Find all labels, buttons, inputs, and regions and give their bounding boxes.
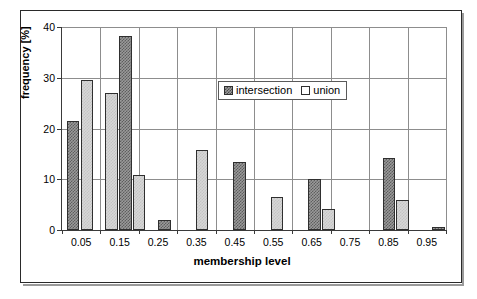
bar-union	[396, 200, 409, 230]
x-axis-label: 0.85	[378, 237, 398, 248]
bar-union	[271, 197, 284, 230]
x-gridline	[331, 27, 332, 230]
y-axis-label: 40	[31, 22, 55, 32]
x-gridline	[292, 27, 293, 230]
bar-intersection	[119, 36, 132, 230]
x-gridline	[100, 27, 101, 230]
y-axis-label: 30	[31, 73, 55, 83]
x-axis-tick	[292, 230, 293, 234]
x-axis-label: 0.65	[301, 237, 321, 248]
bar-union	[322, 209, 335, 230]
figure-frame: 010203040 0.050.150.250.350.450.550.650.…	[20, 10, 462, 283]
x-axis-label: 0.35	[186, 237, 206, 248]
y-axis-label: 20	[31, 124, 55, 134]
bar-union	[81, 80, 94, 230]
y-axis-tick	[57, 78, 62, 79]
plot-area: 010203040 0.050.150.250.350.450.550.650.…	[61, 27, 446, 231]
x-gridline	[446, 27, 447, 230]
y-axis-label: 0	[31, 225, 55, 235]
x-axis-tick	[331, 230, 332, 234]
y-axis-tick	[57, 27, 62, 28]
chart-legend: intersection union	[218, 81, 347, 100]
legend-item-union: union	[301, 84, 340, 96]
x-axis-label: 0.05	[71, 237, 91, 248]
bar-intersection	[308, 179, 321, 230]
x-axis-tick	[177, 230, 178, 234]
figure-frame-shadow-right	[462, 13, 464, 284]
x-axis-tick	[139, 230, 140, 234]
legend-label-intersection: intersection	[236, 84, 292, 96]
bar-intersection	[233, 162, 246, 231]
x-axis-label: 0.25	[148, 237, 168, 248]
y-axis-title: frequency [%]	[19, 26, 31, 99]
x-gridline	[177, 27, 178, 230]
x-axis-tick	[100, 230, 101, 234]
bar-intersection	[383, 158, 396, 230]
x-axis-label: 0.55	[263, 237, 283, 248]
bar-intersection	[67, 121, 80, 230]
x-gridline	[369, 27, 370, 230]
bar-union	[133, 175, 146, 230]
x-axis-tick	[408, 230, 409, 234]
legend-swatch-union-icon	[301, 86, 310, 95]
x-axis-tick	[369, 230, 370, 234]
x-axis-tick	[62, 230, 63, 234]
y-axis-tick	[57, 129, 62, 130]
x-axis-label: 0.75	[340, 237, 360, 248]
x-axis-label: 0.15	[109, 237, 129, 248]
x-axis-tick	[446, 230, 447, 234]
bar-intersection	[432, 227, 445, 230]
bar-union	[105, 93, 118, 230]
x-axis-label: 0.95	[417, 237, 437, 248]
bar-union	[196, 150, 209, 230]
x-axis-tick	[216, 230, 217, 234]
y-axis-tick	[57, 179, 62, 180]
legend-swatch-intersection-icon	[224, 86, 233, 95]
x-axis-tick	[254, 230, 255, 234]
x-axis-title: membership level	[21, 255, 463, 267]
bar-intersection	[158, 220, 171, 230]
legend-label-union: union	[313, 84, 340, 96]
figure-frame-shadow-bottom	[23, 284, 464, 286]
x-gridline	[216, 27, 217, 230]
x-axis-label: 0.45	[225, 237, 245, 248]
legend-item-intersection: intersection	[224, 84, 292, 96]
x-gridline	[254, 27, 255, 230]
y-axis-label: 10	[31, 174, 55, 184]
